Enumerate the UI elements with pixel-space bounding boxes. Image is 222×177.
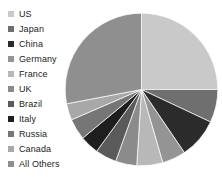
legend-item-label: Russia bbox=[19, 129, 47, 139]
legend-item-label: Italy bbox=[19, 114, 36, 124]
legend-item-label: US bbox=[19, 9, 32, 19]
legend-item[interactable]: Germany bbox=[8, 51, 68, 66]
legend-color-swatch-icon bbox=[8, 71, 14, 77]
legend-color-swatch-icon bbox=[8, 86, 14, 92]
legend-item[interactable]: Russia bbox=[8, 126, 68, 141]
legend-item[interactable]: China bbox=[8, 36, 68, 51]
legend-item[interactable]: UK bbox=[8, 81, 68, 96]
legend-color-swatch-icon bbox=[8, 146, 14, 152]
legend-color-swatch-icon bbox=[8, 131, 14, 137]
legend-item[interactable]: Japan bbox=[8, 21, 68, 36]
legend-item-label: Germany bbox=[19, 54, 57, 64]
legend-item[interactable]: US bbox=[8, 6, 68, 21]
legend-color-swatch-icon bbox=[8, 26, 14, 32]
legend-item-label: All Others bbox=[19, 159, 60, 169]
chart-legend: USJapanChinaGermanyFranceUKBrazilItalyRu… bbox=[8, 6, 68, 171]
legend-item-label: Japan bbox=[19, 24, 44, 34]
pie-slice[interactable] bbox=[142, 13, 218, 89]
pie-slice[interactable] bbox=[65, 13, 141, 104]
legend-item-label: Brazil bbox=[19, 99, 42, 109]
pie-chart-plot-area bbox=[65, 13, 218, 166]
legend-item-label: France bbox=[19, 69, 48, 79]
pie-svg bbox=[65, 13, 218, 166]
legend-item[interactable]: Brazil bbox=[8, 96, 68, 111]
pie-chart-figure: USJapanChinaGermanyFranceUKBrazilItalyRu… bbox=[0, 0, 222, 177]
legend-item-label: China bbox=[19, 39, 43, 49]
legend-color-swatch-icon bbox=[8, 101, 14, 107]
legend-item[interactable]: Canada bbox=[8, 141, 68, 156]
legend-item[interactable]: France bbox=[8, 66, 68, 81]
legend-item-label: Canada bbox=[19, 144, 51, 154]
legend-item-label: UK bbox=[19, 84, 32, 94]
legend-color-swatch-icon bbox=[8, 116, 14, 122]
legend-item[interactable]: Italy bbox=[8, 111, 68, 126]
legend-color-swatch-icon bbox=[8, 41, 14, 47]
legend-color-swatch-icon bbox=[8, 11, 14, 17]
legend-color-swatch-icon bbox=[8, 161, 14, 167]
legend-item[interactable]: All Others bbox=[8, 156, 68, 171]
legend-color-swatch-icon bbox=[8, 56, 14, 62]
